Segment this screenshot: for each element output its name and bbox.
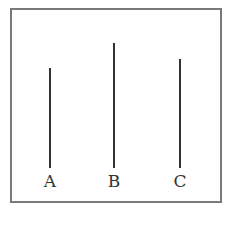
label-a: A [38,172,62,190]
line-a [49,68,51,168]
label-b: B [102,172,126,190]
line-c [179,59,181,168]
line-b [113,43,115,168]
label-c: C [168,172,192,190]
